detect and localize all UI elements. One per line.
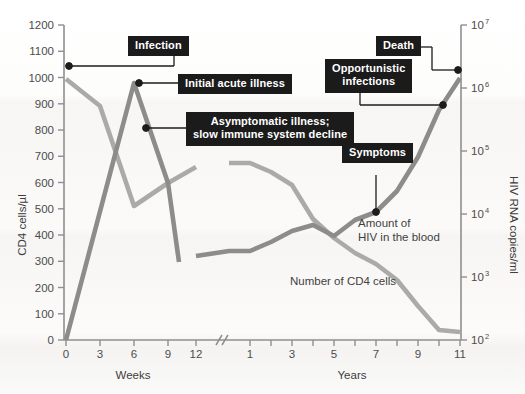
callout-symptoms[interactable]: Symptoms [342,143,413,163]
callout-infection[interactable]: Infection [128,36,189,56]
x-tick-week-12: 12 [190,348,203,360]
right-tick-1e5-exponent: 5 [485,143,489,152]
leader-opportunistic-infections [360,92,446,108]
right-tick-1e6-mantissa: 10 [471,82,484,94]
right-tick-1e6-exponent: 6 [485,80,489,89]
left-tick-900: 900 [35,98,54,110]
right-tick-1e3: 10 3 [471,269,489,283]
left-tick-100: 100 [35,308,54,320]
x-tick-year-9: 9 [415,348,421,360]
left-tick-1200: 1200 [28,19,54,31]
x-tick-year-7: 7 [373,348,379,360]
cd4-series-label: Number of CD4 cells [290,275,396,287]
x-axis: 0 3 6 9 12 1 3 5 7 9 [63,335,466,381]
hiv-series-label-line2: HIV in the blood [358,231,440,243]
left-tick-400: 400 [35,229,54,241]
left-tick-800: 800 [35,124,54,136]
right-tick-1e5: 10 5 [471,143,489,157]
left-axis-title: CD4 cells/µl [16,194,28,256]
x-tick-week-6: 6 [131,348,137,360]
left-tick-1100: 1100 [29,45,54,57]
left-tick-500: 500 [35,203,54,215]
leader-symptoms [373,175,380,215]
right-tick-1e7-exponent: 7 [485,17,489,26]
right-tick-1e3-exponent: 3 [485,269,489,278]
left-tick-0: 0 [48,334,54,346]
right-tick-1e2-mantissa: 10 [471,334,484,346]
left-axis: 1200 1100 1000 900 800 700 600 500 400 3… [16,19,64,346]
left-tick-600: 600 [35,177,54,189]
left-tick-300: 300 [35,255,54,267]
chart-canvas: 1200 1100 1000 900 800 700 600 500 400 3… [0,0,525,394]
right-tick-1e3-mantissa: 10 [471,271,484,283]
left-tick-200: 200 [35,282,54,294]
x-tick-year-1: 1 [247,348,253,360]
right-tick-1e4-mantissa: 10 [471,208,484,220]
left-tick-1000: 1000 [28,72,54,84]
callout-initial-acute-illness[interactable]: Initial acute illness [178,74,292,94]
x-tick-year-11: 11 [454,348,466,360]
x-tick-week-9: 9 [165,348,171,360]
callout-opportunistic-infections[interactable]: Opportunistic infections [325,59,412,93]
hiv-series-label-line1: Amount of [358,217,411,229]
x-tick-week-0: 0 [63,348,69,360]
hiv-infection-timeline-figure: 1200 1100 1000 900 800 700 600 500 400 3… [0,0,525,394]
right-tick-1e2-exponent: 2 [485,332,489,341]
x-tick-year-3: 3 [289,348,295,360]
callout-asymptomatic-illness[interactable]: Asymptomatic illness; slow immune system… [186,112,354,146]
series-line-hiv-acute [66,83,179,340]
right-tick-1e6: 10 6 [471,80,489,94]
left-tick-700: 700 [35,150,54,162]
right-tick-1e2: 10 2 [471,332,489,346]
right-tick-1e4-exponent: 4 [485,206,489,215]
right-tick-1e4: 10 4 [471,206,489,220]
x-axis-title-weeks: Weeks [116,369,151,381]
x-axis-title-years: Years [338,369,367,381]
right-axis: 10 7 10 6 10 5 10 4 10 3 10 2 [461,17,520,346]
right-tick-1e7: 10 7 [471,17,489,31]
leader-initial-acute-illness [136,80,178,87]
right-tick-1e7-mantissa: 10 [471,19,484,31]
x-tick-week-3: 3 [97,348,103,360]
callout-death[interactable]: Death [376,36,421,56]
right-tick-1e5-mantissa: 10 [471,145,484,157]
x-tick-year-5: 5 [331,348,337,360]
right-axis-title: HIV RNA copies/ml [508,176,520,274]
